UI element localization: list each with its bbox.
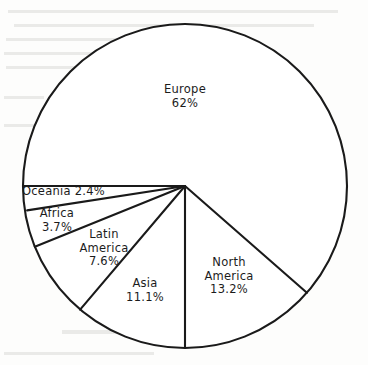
slice-label-latin-america-value: 7.6% — [68, 255, 140, 269]
pie-svg — [0, 0, 368, 365]
slice-label-asia-name: Asia — [119, 277, 171, 291]
slice-label-europe-value: 62% — [145, 97, 225, 111]
slice-label-north-america-name2: America — [194, 270, 264, 284]
slice-label-north-america-value: 13.2% — [194, 283, 264, 297]
pie-chart: Europe 62% North America 13.2% Asia 11.1… — [0, 0, 368, 365]
slice-label-africa-name: Africa — [30, 207, 84, 221]
slice-label-latin-america-name2: America — [68, 242, 140, 256]
slice-label-north-america: North America 13.2% — [194, 256, 264, 297]
slice-label-africa: Africa 3.7% — [30, 207, 84, 234]
slice-label-europe: Europe 62% — [145, 83, 225, 110]
slice-label-africa-value: 3.7% — [30, 221, 84, 235]
slice-label-asia: Asia 11.1% — [119, 277, 171, 304]
slice-label-oceania-text: Oceania 2.4% — [22, 185, 116, 199]
slice-label-europe-name: Europe — [145, 83, 225, 97]
slice-label-north-america-name1: North — [194, 256, 264, 270]
slice-label-oceania: Oceania 2.4% — [22, 185, 116, 199]
slice-label-asia-value: 11.1% — [119, 291, 171, 305]
slice-label-latin-america: Latin America 7.6% — [68, 228, 140, 269]
